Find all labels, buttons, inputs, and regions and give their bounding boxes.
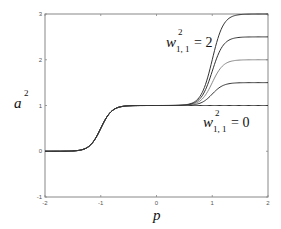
svg-text:2: 2 <box>24 88 29 98</box>
y-tick-label: -1 <box>37 194 43 200</box>
svg-text:a: a <box>14 95 22 111</box>
y-axis-label: a 2 <box>14 88 29 111</box>
y-tick-label: 0 <box>39 148 43 154</box>
x-tick-label: -1 <box>98 200 104 206</box>
svg-text:2: 2 <box>178 27 183 37</box>
svg-text:= 2: = 2 <box>194 35 212 50</box>
y-tick-label: 1 <box>39 103 43 109</box>
line-chart: -2-1012-10123 a 2 p w 2 1, 1 = 2 w 2 1, … <box>0 0 281 229</box>
y-tick-label: 2 <box>39 57 43 63</box>
curve-group <box>45 14 268 151</box>
svg-text:w: w <box>203 114 213 130</box>
svg-text:w: w <box>166 34 176 50</box>
x-axis-label: p <box>152 207 161 223</box>
x-tick-label: 2 <box>266 200 270 206</box>
svg-text:2: 2 <box>215 108 220 118</box>
svg-text:1, 1: 1, 1 <box>213 124 227 134</box>
x-tick-label: 0 <box>155 200 159 206</box>
annotation-w0: w 2 1, 1 = 0 <box>203 108 249 134</box>
svg-text:1, 1: 1, 1 <box>176 44 190 54</box>
svg-text:= 0: = 0 <box>231 115 249 130</box>
curve-w-1-5 <box>45 37 268 151</box>
y-tick-label: 3 <box>39 11 43 17</box>
x-tick-label: -2 <box>42 200 48 206</box>
x-tick-label: 1 <box>211 200 215 206</box>
axis-ticks: -2-1012-10123 <box>37 11 271 206</box>
annotation-w2: w 2 1, 1 = 2 <box>166 27 212 54</box>
